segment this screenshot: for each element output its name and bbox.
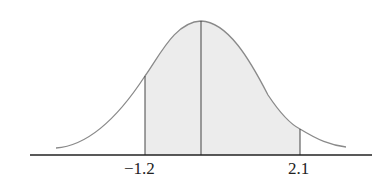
tick-label-right: 2.1 <box>288 160 309 177</box>
tick-label-left: −1.2 <box>124 160 155 177</box>
normal-curve-chart <box>0 0 380 183</box>
